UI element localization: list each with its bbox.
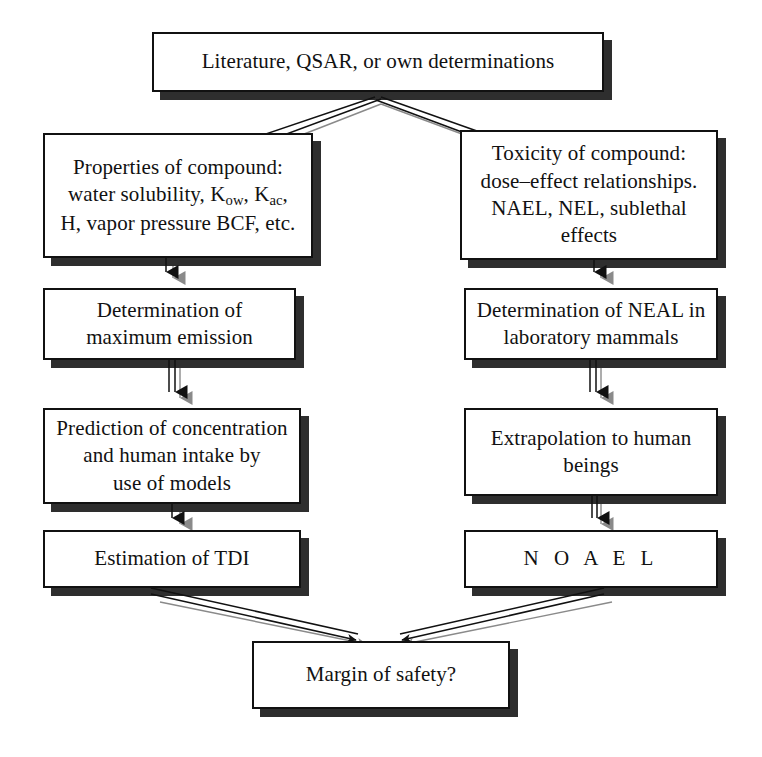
node-source-label: Literature, QSAR, or own determinations [194,48,563,75]
node-margin-of-safety-label: Margin of safety? [298,661,465,688]
node-tdi[interactable]: Estimation of TDI [43,530,301,588]
risk-assessment-flowchart: Literature, QSAR, or own determinations … [0,0,762,757]
node-extrapolation-label: Extrapolation to human beings [483,425,700,480]
node-properties-label: Properties of compound:water solubility,… [53,154,304,238]
converge-arrow-shadows [160,602,612,644]
node-neal-lab[interactable]: Determination of NEAL in laboratory mamm… [464,288,718,360]
node-max-emission[interactable]: Determination of maximum emission [43,288,296,360]
node-toxicity[interactable]: Toxicity of compound: dose–effect relati… [460,130,718,260]
node-max-emission-label: Determination of maximum emission [78,297,261,352]
node-neal-lab-label: Determination of NEAL in laboratory mamm… [469,297,713,352]
node-noael-label: N O A E L [516,545,667,572]
node-extrapolation[interactable]: Extrapolation to human beings [464,408,718,496]
node-source[interactable]: Literature, QSAR, or own determinations [152,32,604,92]
node-properties[interactable]: Properties of compound:water solubility,… [43,133,313,258]
node-prediction[interactable]: Prediction of concentration and human in… [43,408,301,504]
node-noael[interactable]: N O A E L [464,530,718,588]
node-toxicity-label: Toxicity of compound: dose–effect relati… [473,140,706,249]
node-tdi-label: Estimation of TDI [86,545,257,572]
node-prediction-label: Prediction of concentration and human in… [48,415,295,497]
node-margin-of-safety[interactable]: Margin of safety? [252,641,510,709]
